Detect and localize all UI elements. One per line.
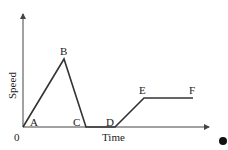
label-D: D (106, 116, 114, 128)
origin-label: 0 (14, 131, 20, 143)
label-A: A (30, 116, 38, 128)
label-E: E (139, 84, 146, 96)
label-C: C (73, 116, 80, 128)
x-axis-label: Time (102, 131, 125, 143)
label-B: B (60, 45, 67, 57)
speed-time-graph: A B C D E F 0 Time Speed (0, 0, 228, 150)
bullet-dot-icon (219, 137, 227, 145)
y-axis-label: Speed (6, 72, 18, 99)
label-F: F (189, 84, 195, 96)
